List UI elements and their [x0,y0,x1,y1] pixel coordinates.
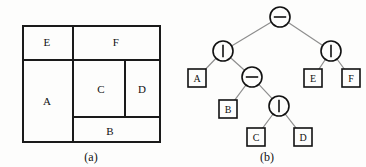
a-rest-cut [72,61,74,143]
slicing-tree-graphic: ABCDEF [183,0,366,150]
edge-root-to-left [231,22,273,47]
floorplan-room-d: D [138,84,146,95]
floorplan-room-e: E [44,37,51,48]
inner-horizontal-cut-node [242,67,262,87]
edge-inner-to-vcut [258,84,273,100]
leaf-label-d: D [299,132,306,143]
leaf-label-c: C [253,132,260,143]
panel-a-caption: (a) [84,150,97,165]
e-f-cut [72,25,74,59]
edge-left-to-inner [230,57,246,71]
left-vertical-cut-node [213,41,233,61]
edge-root-to-right [287,22,323,46]
panel-b-caption: (b) [260,150,274,165]
leaf-node-f: F [342,69,360,87]
leaf-label-b: B [225,104,232,115]
leaf-label-e: E [310,73,316,84]
floorplan-room-b: B [106,126,114,137]
root-horizontal-cut-node [270,7,290,27]
leaf-node-b: B [219,100,237,118]
inner-vertical-cut-node [269,96,289,116]
slicing-tree-panel: ABCDEF (b) [183,0,366,167]
floorplan-panel: ABCDEF (a) [0,0,183,167]
c-d-cut [124,61,126,118]
leaf-label-a: A [193,73,201,84]
b-upper-cut [72,116,161,118]
leaf-label-f: F [348,73,354,84]
leaf-node-d: D [294,128,312,146]
leaf-node-a: A [188,69,206,87]
slicing-floorplan-figure: ABCDEF (a) ABCDEF (b) [0,0,366,167]
floorplan-room-c: C [97,84,105,95]
leaf-node-e: E [304,69,322,87]
right-vertical-cut-node [321,41,341,61]
floorplan-room-a: A [43,96,51,107]
leaf-node-c: C [247,128,265,146]
floorplan-room-f: F [113,37,119,48]
top-bottom-cut [22,59,161,61]
